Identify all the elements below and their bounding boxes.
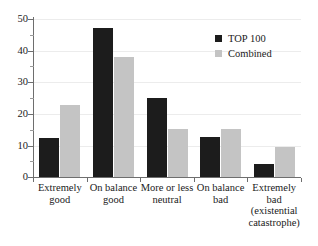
bar-combined-0 [60,105,80,177]
x-axis-label-3: On balancebad [194,182,248,205]
legend-item-top100: TOP 100 [215,31,272,46]
x-axis-label-line: good [87,194,141,206]
bar-top100-0 [39,138,59,178]
x-axis-label-line: Extremely [247,182,301,194]
legend-label-top100: TOP 100 [228,32,266,46]
bar-combined-4 [275,147,295,177]
x-axis-label-line: good [33,194,87,206]
bar-top100-4 [254,164,274,177]
bar-chart: 50 40 30 20 10 0 ExtremelygoodOn balance… [0,0,318,246]
x-axis-label-line: neutral [140,194,194,206]
legend-label-combined: Combined [228,47,272,61]
x-axis-label-line: On balance [194,182,248,194]
x-axis-separator-end-1 [301,178,302,182]
chart-legend: TOP 100 Combined [215,31,272,61]
x-axis-label-line: bad [247,194,301,206]
x-axis-labels: ExtremelygoodOn balancegoodMore or lessn… [33,182,301,244]
x-axis-label-line: (existential [247,205,301,217]
y-axis-label-0: 0 [2,172,28,182]
y-axis-label-40: 40 [2,46,28,56]
y-axis-label-20: 20 [2,109,28,119]
bar-top100-1 [93,28,113,177]
x-axis-label-0: Extremelygood [33,182,87,205]
bar-combined-1 [114,57,134,177]
legend-swatch-icon-top100 [215,35,222,42]
legend-swatch-icon-combined [215,50,222,57]
x-axis-label-line: On balance [87,182,141,194]
x-axis-label-line: Extremely [33,182,87,194]
x-axis-label-1: On balancegood [87,182,141,205]
y-axis-label-50: 50 [2,14,28,24]
legend-item-combined: Combined [215,46,272,61]
bar-combined-2 [168,129,188,177]
bar-combined-3 [221,129,241,177]
x-axis-label-2: More or lessneutral [140,182,194,205]
y-axis-label-10: 10 [2,141,28,151]
x-axis-label-line: More or less [140,182,194,194]
x-axis-label-line: bad [194,194,248,206]
x-axis-label-4: Extremelybad(existentialcatastrophe) [247,182,301,228]
bar-top100-3 [200,137,220,177]
x-axis-label-line: catastrophe) [247,217,301,229]
bar-top100-2 [147,98,167,177]
y-axis-label-30: 30 [2,77,28,87]
x-axis-line [33,177,301,178]
